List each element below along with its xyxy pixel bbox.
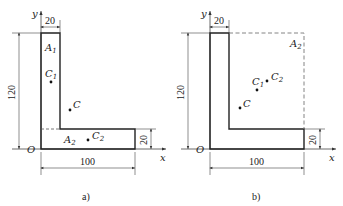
dim-bottom-width-label: 100 bbox=[249, 156, 264, 167]
centroid-c-point bbox=[69, 109, 72, 112]
centroid-c1-label: C1 bbox=[45, 68, 57, 81]
y-axis-label: y bbox=[31, 8, 38, 19]
centroid-c2-point bbox=[87, 139, 90, 142]
dim-flange-label: 20 bbox=[138, 135, 149, 145]
diagram-canvas: y x O 20 120 100 20 A1 A2 C1 C C2 a) bbox=[0, 0, 343, 206]
dim-bottom-width-label: 100 bbox=[80, 156, 95, 167]
centroid-c-point bbox=[239, 107, 242, 110]
figure-a: y x O 20 120 100 20 A1 A2 C1 C C2 a) bbox=[6, 8, 166, 203]
centroid-c2-point bbox=[266, 80, 269, 83]
dim-height-label: 120 bbox=[175, 85, 186, 100]
x-axis-label: x bbox=[329, 152, 335, 163]
region-a2-label: A2 bbox=[289, 38, 302, 51]
centroid-c1-label: C1 bbox=[252, 76, 264, 89]
dim-height-label: 120 bbox=[6, 85, 17, 100]
dim-flange-label: 20 bbox=[307, 135, 318, 145]
centroid-c1-point bbox=[256, 89, 259, 92]
caption-a: a) bbox=[82, 191, 90, 203]
region-a1-label: A1 bbox=[44, 42, 57, 55]
y-axis-label: y bbox=[200, 8, 207, 19]
centroid-c-label: C bbox=[73, 99, 81, 110]
dim-top-width-label: 20 bbox=[214, 15, 224, 26]
dim-top-width-label: 20 bbox=[45, 15, 55, 26]
centroid-c2-label: C2 bbox=[92, 130, 105, 143]
centroid-c1-point bbox=[50, 81, 53, 84]
origin-label: O bbox=[27, 144, 35, 155]
caption-b: b) bbox=[252, 191, 260, 203]
x-axis-label: x bbox=[160, 152, 166, 163]
region-a2-label: A2 bbox=[63, 134, 76, 147]
origin-label: O bbox=[196, 144, 204, 155]
centroid-c-label: C bbox=[243, 98, 251, 109]
figure-b: y x O 20 120 100 20 A2 C1 C2 C b) bbox=[175, 8, 336, 203]
centroid-c2-label: C2 bbox=[271, 71, 284, 84]
